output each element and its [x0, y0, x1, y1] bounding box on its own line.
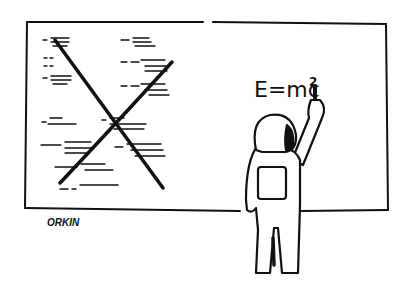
- cartoon: E=mc 2 ORKIN: [0, 0, 409, 291]
- astronaut: [246, 86, 324, 273]
- crossed-equations: [41, 38, 169, 189]
- cross-out-mark: [55, 40, 172, 188]
- artist-signature: ORKIN: [47, 217, 80, 228]
- chalkboard: [25, 22, 388, 211]
- cartoon-drawing: E=mc 2 ORKIN: [0, 0, 409, 291]
